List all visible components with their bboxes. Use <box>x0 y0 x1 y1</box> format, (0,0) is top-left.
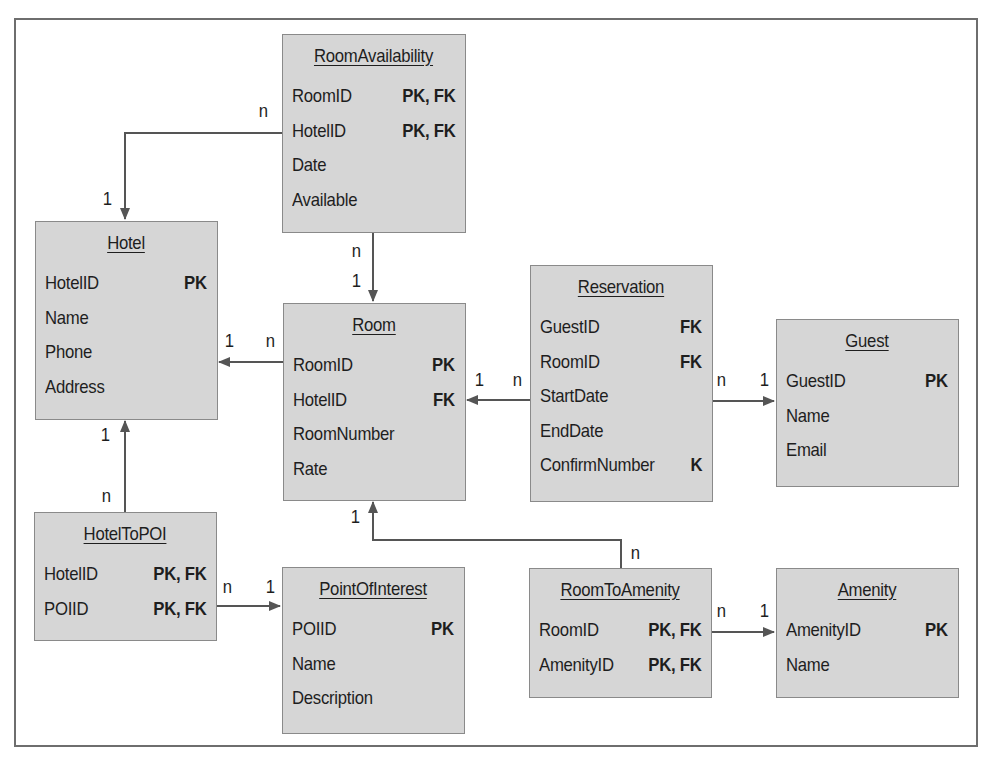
attribute-row: RoomIDPK, FK <box>292 79 455 114</box>
attribute-name: StartDate <box>540 379 608 414</box>
attribute-name: Name <box>292 647 336 682</box>
attribute-row: POIIDPK, FK <box>44 592 206 627</box>
attribute-name: RoomID <box>292 79 352 114</box>
attribute-name: RoomNumber <box>293 417 394 452</box>
attribute-name: AmenityID <box>539 648 614 683</box>
entity-title: Hotel <box>55 232 198 254</box>
attribute-row: AmenityIDPK <box>786 613 948 648</box>
attribute-row: Phone <box>45 335 207 370</box>
entity-title: RoomAvailability <box>302 45 445 67</box>
entity-title: Guest <box>796 330 939 352</box>
attribute-name: Rate <box>293 452 327 487</box>
entity-title: PointOfInterest <box>302 578 445 600</box>
entity-title: Room <box>303 314 446 336</box>
entity-title: HotelToPOI <box>54 523 197 545</box>
entity-title: RoomToAmenity <box>549 579 692 601</box>
attribute-name: ConfirmNumber <box>540 448 655 483</box>
cardinality-label: n <box>223 576 232 598</box>
cardinality-label: n <box>717 369 726 391</box>
attribute-row: EndDate <box>540 414 702 449</box>
attribute-row: Email <box>786 433 948 468</box>
cardinality-label: n <box>352 240 361 262</box>
attribute-key: FK <box>680 310 702 345</box>
entity-roomtoamenity[interactable]: RoomToAmenity RoomIDPK, FK AmenityIDPK, … <box>529 568 712 698</box>
link-roomavailability-hotel <box>125 133 282 219</box>
attribute-key: FK <box>433 383 455 418</box>
cardinality-label: n <box>102 485 111 507</box>
attribute-row: POIIDPK <box>292 612 454 647</box>
attribute-name: Name <box>45 301 89 336</box>
attribute-row: RoomIDFK <box>540 345 702 380</box>
attribute-name: Description <box>292 681 373 716</box>
attribute-name: Phone <box>45 335 92 370</box>
cardinality-label: n <box>513 369 522 391</box>
entity-hoteltopoi[interactable]: HotelToPOI HotelIDPK, FK POIIDPK, FK <box>34 512 217 641</box>
cardinality-label: 1 <box>225 330 234 352</box>
cardinality-label: n <box>266 330 275 352</box>
entity-title: Reservation <box>550 276 693 298</box>
attribute-key: PK, FK <box>153 592 206 627</box>
cardinality-label: 1 <box>475 369 484 391</box>
attribute-key: PK <box>431 612 454 647</box>
attribute-row: RoomIDPK <box>293 348 455 383</box>
attribute-name: HotelID <box>45 266 99 301</box>
attribute-row: RoomIDPK, FK <box>539 613 701 648</box>
cardinality-label: 1 <box>352 270 361 292</box>
attribute-name: GuestID <box>540 310 599 345</box>
entity-title: Amenity <box>796 579 939 601</box>
cardinality-label: n <box>631 542 640 564</box>
attribute-name: GuestID <box>786 364 845 399</box>
entity-room[interactable]: Room RoomIDPK HotelIDFK RoomNumber Rate <box>283 303 466 501</box>
attribute-name: Address <box>45 370 104 405</box>
attribute-name: Name <box>786 648 830 683</box>
cardinality-label: 1 <box>760 369 769 391</box>
cardinality-label: 1 <box>101 424 110 446</box>
attribute-key: K <box>690 448 702 483</box>
attribute-name: HotelID <box>292 114 346 149</box>
attribute-row: Date <box>292 148 455 183</box>
cardinality-label: 1 <box>266 576 275 598</box>
entity-pointofinterest[interactable]: PointOfInterest POIIDPK Name Description <box>282 567 465 734</box>
cardinality-label: n <box>717 600 726 622</box>
entity-reservation[interactable]: Reservation GuestIDFK RoomIDFK StartDate… <box>530 265 713 502</box>
attribute-key: PK, FK <box>648 648 701 683</box>
attribute-key: PK <box>925 364 948 399</box>
attribute-key: PK <box>925 613 948 648</box>
entity-amenity[interactable]: Amenity AmenityIDPK Name <box>776 568 959 698</box>
attribute-row: Address <box>45 370 207 405</box>
attribute-name: POIID <box>292 612 336 647</box>
cardinality-label: n <box>259 100 268 122</box>
attribute-name: Available <box>292 183 357 218</box>
attribute-row: Name <box>292 647 454 682</box>
attribute-row: RoomNumber <box>293 417 455 452</box>
cardinality-label: 1 <box>103 188 112 210</box>
attribute-name: EndDate <box>540 414 603 449</box>
attribute-key: PK, FK <box>153 557 206 592</box>
link-roomtoamenity-room <box>373 502 621 568</box>
attribute-key: PK <box>184 266 207 301</box>
entity-roomavailability[interactable]: RoomAvailability RoomIDPK, FK HotelIDPK,… <box>282 34 466 233</box>
attribute-row: HotelIDFK <box>293 383 455 418</box>
attribute-row: HotelIDPK, FK <box>44 557 206 592</box>
attribute-row: Name <box>786 399 948 434</box>
attribute-row: Name <box>786 648 948 683</box>
attribute-row: AmenityIDPK, FK <box>539 648 701 683</box>
attribute-row: Rate <box>293 452 455 487</box>
attribute-key: PK, FK <box>648 613 701 648</box>
attribute-name: RoomID <box>539 613 599 648</box>
attribute-name: Email <box>786 433 826 468</box>
entity-hotel[interactable]: Hotel HotelIDPK Name Phone Address <box>35 221 218 420</box>
attribute-name: AmenityID <box>786 613 861 648</box>
cardinality-label: 1 <box>760 600 769 622</box>
attribute-row: StartDate <box>540 379 702 414</box>
attribute-row: GuestIDPK <box>786 364 948 399</box>
attribute-key: FK <box>680 345 702 380</box>
attribute-name: Name <box>786 399 830 434</box>
attribute-row: ConfirmNumberK <box>540 448 702 483</box>
attribute-name: RoomID <box>293 348 353 383</box>
attribute-key: PK <box>432 348 455 383</box>
attribute-row: Name <box>45 301 207 336</box>
entity-guest[interactable]: Guest GuestIDPK Name Email <box>776 319 959 487</box>
attribute-row: Description <box>292 681 454 716</box>
attribute-key: PK, FK <box>402 114 455 149</box>
